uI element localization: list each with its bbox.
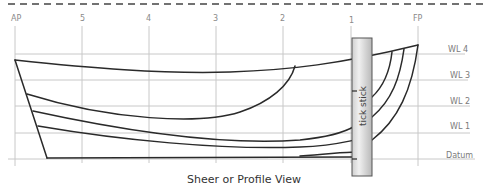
- station-label-ap: AP: [11, 14, 21, 23]
- tick-stick-label: tick stick: [358, 85, 368, 126]
- station-label-5: 5: [80, 14, 85, 23]
- station-labels: AP 5 4 3 2 1 FP: [11, 14, 423, 25]
- waterline-label-wl2: WL 2: [450, 97, 470, 106]
- diagram-caption: Sheer or Profile View: [187, 173, 301, 186]
- waterline-labels: WL 4 WL 3 WL 2 WL 1 Datum: [446, 45, 473, 160]
- sheer-profile-diagram: AP 5 4 3 2 1 FP WL 4 WL 3 WL 2 WL 1 Datu…: [0, 0, 492, 193]
- buttock-line-1: [27, 66, 295, 119]
- station-label-2: 2: [280, 14, 285, 23]
- buttock-line-4: [300, 152, 356, 156]
- forward-curve-1: [372, 52, 392, 97]
- station-label-4: 4: [146, 14, 151, 23]
- buttock-line-3: [38, 126, 355, 148]
- tick-stick: tick stick: [352, 38, 372, 176]
- buttock-line-2: [33, 111, 355, 141]
- transom-line: [15, 60, 47, 158]
- station-label-1: 1: [349, 16, 354, 25]
- station-label-3: 3: [213, 14, 218, 23]
- station-label-fp: FP: [413, 14, 423, 23]
- keel-line: [47, 157, 352, 158]
- waterline-label-datum: Datum: [446, 151, 473, 160]
- waterline-label-wl3: WL 3: [450, 71, 470, 80]
- forward-curve-3: [372, 45, 418, 140]
- waterline-label-wl4: WL 4: [448, 45, 468, 54]
- waterline-label-wl1: WL 1: [450, 122, 470, 131]
- waterline-grid-lines: [8, 54, 475, 159]
